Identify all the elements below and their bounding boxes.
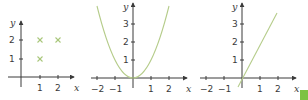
y-tick-label: 3 xyxy=(232,19,238,29)
page-corner-tab xyxy=(300,90,308,100)
x-tick-label: −2 xyxy=(91,84,104,94)
x-axis-label: x xyxy=(74,82,80,93)
x-tick-label: −1 xyxy=(218,84,231,94)
linear-panel: −2 −1 1 2 1 2 3 x y xyxy=(200,1,300,94)
y-tick-label: 1 xyxy=(9,54,15,64)
cross-marker xyxy=(56,38,61,43)
y-tick-label: 3 xyxy=(123,19,129,29)
x-tick-label: 2 xyxy=(55,83,61,93)
x-tick-label: 1 xyxy=(257,84,263,94)
graphs-figure: 1 2 1 2 x y −2 −1 1 2 1 2 3 x y xyxy=(0,0,308,100)
x-tick-label: 1 xyxy=(37,83,43,93)
y-tick-label: 1 xyxy=(232,55,238,65)
y-axis-label: y xyxy=(9,17,16,28)
x-axis-label: x xyxy=(186,83,192,94)
cross-marker xyxy=(38,57,43,62)
y-axis-label: y xyxy=(122,1,129,12)
cross-marker xyxy=(38,38,43,43)
y-tick-label: 2 xyxy=(123,37,129,47)
y-tick-label: 1 xyxy=(123,55,129,65)
y-axis-label: y xyxy=(231,1,238,12)
x-tick-label: 2 xyxy=(166,84,172,94)
scatter-panel: 1 2 1 2 x y xyxy=(8,17,80,93)
x-tick-label: 2 xyxy=(275,84,281,94)
x-tick-label: −1 xyxy=(109,84,122,94)
y-tick-label: 2 xyxy=(9,35,15,45)
parabola-panel: −2 −1 1 2 1 2 3 x y xyxy=(91,1,192,94)
x-tick-label: −2 xyxy=(200,84,213,94)
x-tick-label: 1 xyxy=(148,84,154,94)
y-tick-label: 2 xyxy=(232,37,238,47)
